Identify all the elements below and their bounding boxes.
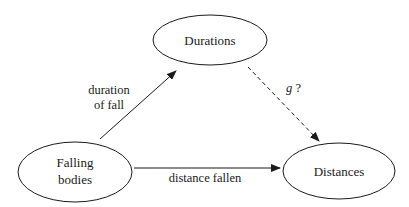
falling-bodies-label-line1: Falling [57,155,94,170]
distance-fallen-label: distance fallen [169,171,242,185]
diagram-canvas: Durations Falling bodies Distances durat… [0,0,409,207]
edge-falling-bodies-to-distances: distance fallen [134,168,280,185]
node-distances: Distances [283,143,395,199]
node-durations: Durations [153,15,267,65]
falling-bodies-label-line2: bodies [58,172,92,187]
edge-falling-bodies-to-durations: duration of fall [88,71,176,139]
node-falling-bodies: Falling bodies [18,142,132,202]
distances-label: Distances [314,164,365,179]
duration-of-fall-label-line2: of fall [94,98,125,112]
g-question-label: g ? [286,81,301,95]
dashed-arrow [248,67,319,141]
diagram-svg: Durations Falling bodies Distances durat… [0,0,409,207]
durations-label: Durations [184,33,235,48]
question-mark: ? [292,81,301,95]
edge-durations-to-distances: g ? [248,67,319,141]
duration-of-fall-label-line1: duration [88,83,130,97]
